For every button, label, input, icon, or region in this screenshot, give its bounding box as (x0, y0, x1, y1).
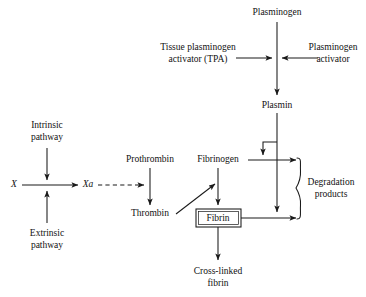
cascade-svg: Plasminogen Tissue plasminogen activator… (0, 0, 366, 297)
label-plasmin: Plasmin (262, 100, 293, 110)
label-intrinsic-line2: pathway (31, 132, 63, 142)
label-factor-xa: Xa (82, 179, 94, 189)
label-prothrombin: Prothrombin (126, 154, 174, 164)
label-thrombin: Thrombin (131, 208, 169, 218)
label-fibrin: Fibrin (206, 213, 229, 223)
label-degradation-products-line2: products (315, 189, 348, 199)
label-cross-linked-fibrin-line2: fibrin (207, 278, 228, 288)
label-cross-linked-fibrin-line1: Cross-linked (194, 266, 243, 276)
label-intrinsic-line1: Intrinsic (31, 120, 63, 130)
cascade-diagram: Plasminogen Tissue plasminogen activator… (0, 0, 366, 297)
label-degradation-products-line1: Degradation (308, 177, 355, 187)
label-plasminogen: Plasminogen (252, 7, 301, 17)
label-tpa-line1: Tissue plasminogen (160, 42, 236, 52)
label-plasminogen-activator-line1: Plasminogen (308, 42, 357, 52)
label-tpa-line2: activator (TPA) (168, 54, 227, 65)
label-fibrinogen: Fibrinogen (197, 154, 239, 164)
label-extrinsic-line2: pathway (31, 240, 63, 250)
label-factor-x: X (10, 179, 18, 189)
degradation-brace (296, 158, 301, 219)
label-plasminogen-activator-line2: activator (316, 54, 350, 64)
plasmin-hook-to-fibrinogen-line-edge (263, 142, 277, 155)
label-extrinsic-line1: Extrinsic (30, 228, 64, 238)
